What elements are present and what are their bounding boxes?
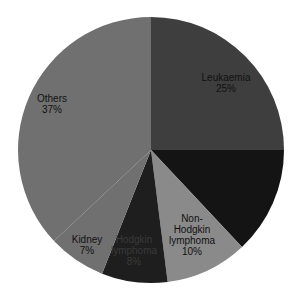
label-hodgkin: Hodgkin lymphoma 8% — [111, 234, 157, 267]
label-hodgkin-line2: lymphoma — [111, 245, 157, 256]
label-others-pct: 37% — [37, 104, 67, 115]
label-kidney-name: Kidney — [72, 234, 103, 245]
label-hodgkin-pct: 8% — [111, 256, 157, 267]
label-non-hodgkin: Non- Hodgkin lymphoma 10% — [169, 213, 215, 257]
label-kidney-pct: 7% — [72, 245, 103, 256]
label-leukaemia-pct: 25% — [202, 83, 251, 94]
label-others-name: Others — [37, 93, 67, 104]
label-kidney: Kidney 7% — [72, 234, 103, 256]
label-nhl-pct: 10% — [169, 246, 215, 257]
label-leukaemia-name: Leukaemia — [202, 72, 251, 83]
label-nhl-line2: Hodgkin — [169, 224, 215, 235]
label-nhl-line1: Non- — [169, 213, 215, 224]
label-hodgkin-line1: Hodgkin — [111, 234, 157, 245]
label-others: Others 37% — [37, 93, 67, 115]
label-leukaemia: Leukaemia 25% — [202, 72, 251, 94]
label-nhl-line3: lymphoma — [169, 235, 215, 246]
